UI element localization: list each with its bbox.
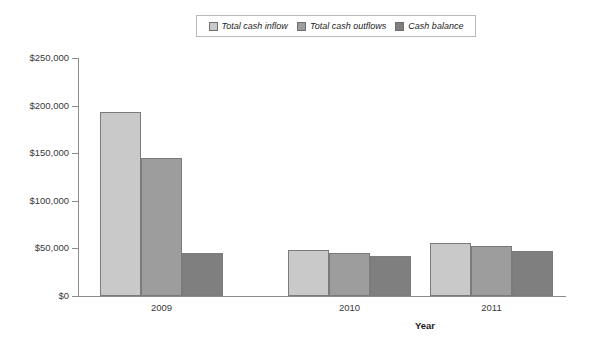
x-axis-label-2010: 2010	[320, 303, 380, 313]
legend-swatch-inflow-icon	[209, 22, 218, 31]
legend-item-inflow: Total cash inflow	[209, 22, 288, 31]
bar-group-2010	[288, 58, 411, 296]
bar-2010-balance	[370, 256, 411, 296]
y-axis-tick	[72, 296, 78, 297]
legend-label-inflow: Total cash inflow	[222, 22, 288, 31]
bar-2011-balance	[512, 251, 553, 296]
bar-2009-balance	[182, 253, 223, 296]
y-axis-label: $250,000	[0, 53, 69, 63]
y-axis-label: $150,000	[0, 148, 69, 158]
x-axis-label-2011: 2011	[462, 303, 522, 313]
bar-2011-inflow	[430, 243, 471, 296]
legend-swatch-outflow-icon	[297, 22, 306, 31]
legend-item-balance: Cash balance	[395, 22, 463, 31]
y-axis-label: $100,000	[0, 196, 69, 206]
bar-2010-outflow	[329, 253, 370, 296]
x-axis-line	[78, 296, 566, 297]
y-axis-label: $50,000	[0, 243, 69, 253]
y-axis-label: $200,000	[0, 101, 69, 111]
legend-item-outflow: Total cash outflows	[297, 22, 386, 31]
bar-group-2009	[100, 58, 223, 296]
bar-group-2011	[430, 58, 553, 296]
plot-area	[78, 58, 565, 296]
x-axis-label-2009: 2009	[132, 303, 192, 313]
bar-2009-inflow	[100, 112, 141, 296]
bar-2009-outflow	[141, 158, 182, 296]
bar-2011-outflow	[471, 246, 512, 296]
x-axis-title: Year	[385, 321, 465, 331]
legend-label-outflow: Total cash outflows	[310, 22, 386, 31]
legend-label-balance: Cash balance	[408, 22, 463, 31]
bar-2010-inflow	[288, 250, 329, 296]
y-axis-label: $0	[0, 291, 69, 301]
legend-swatch-balance-icon	[395, 22, 404, 31]
chart-legend: Total cash inflow Total cash outflows Ca…	[196, 15, 476, 37]
bar-chart: Total cash inflow Total cash outflows Ca…	[0, 0, 610, 351]
